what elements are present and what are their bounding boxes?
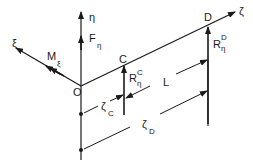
m-xi-sub: ξ (57, 59, 61, 68)
zeta-d-sub: D (149, 127, 155, 136)
l-label: L (163, 76, 169, 88)
l-dim-right (176, 60, 207, 74)
beam-force-diagram: η F η ξ M ξ ζ O C D R C η R D η ζ C L ζ … (0, 0, 253, 164)
r-d-label: R (213, 38, 221, 50)
f-eta-label: F (89, 32, 96, 44)
zeta-axis-beam (81, 12, 235, 86)
f-eta-sub: η (97, 41, 101, 50)
zeta-d-dim-b (160, 91, 207, 114)
r-d-sup: D (221, 33, 227, 42)
zeta-c-sub: C (108, 109, 114, 118)
zeta-d-label: ζ (142, 118, 147, 130)
origin-label: O (73, 86, 82, 98)
zeta-c-label: ζ (101, 100, 106, 112)
dimension-node-d (79, 148, 83, 152)
zeta-d-dim-a (84, 127, 130, 149)
point-d-label: D (204, 11, 212, 23)
point-c-label: C (119, 53, 127, 65)
r-c-sub: η (137, 79, 141, 88)
r-d-sub: η (221, 44, 225, 53)
zeta-c-dim-a (84, 106, 98, 113)
r-c-label: R (129, 72, 137, 84)
zeta-axis-label: ζ (239, 5, 244, 17)
r-c-sup: C (137, 68, 143, 77)
dimension-node-c (79, 112, 83, 116)
xi-axis-label: ξ (12, 37, 17, 49)
m-xi-label: M (47, 50, 56, 62)
zeta-c-dim-b (110, 95, 123, 101)
eta-axis-label: η (89, 11, 95, 23)
